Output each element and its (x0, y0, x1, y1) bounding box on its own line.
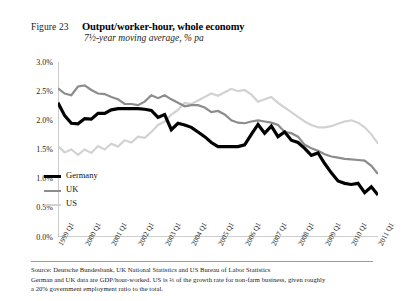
legend-label: UK (66, 184, 78, 194)
y-axis-label: 2.5% (19, 87, 53, 96)
y-axis-label: 0.0% (19, 233, 53, 242)
legend-swatch (44, 175, 61, 178)
chart-legend: GermanyUKUS (44, 170, 110, 214)
y-axis-label: 2.0% (19, 116, 53, 125)
footer-divider (31, 261, 373, 262)
figure-container: Figure 23 Output/worker-hour, whole econ… (0, 0, 402, 301)
figure-subtitle: 7½-year moving average, % pa (84, 33, 204, 43)
page-title: Output/worker-hour, whole economy (82, 21, 244, 32)
y-axis-label: 1.5% (19, 145, 53, 154)
legend-item-uk: UK (44, 184, 110, 198)
figure-label: Figure 23 (31, 22, 69, 32)
legend-label: US (66, 198, 77, 208)
legend-swatch (44, 190, 61, 192)
legend-item-germany: Germany (44, 170, 110, 184)
method-note-line-1: German and UK data are GDP/hour-worked. … (31, 276, 325, 283)
legend-item-us: US (44, 198, 110, 212)
series-line-uk (58, 85, 378, 174)
x-axis-label: 2011 Q1 (376, 221, 396, 247)
y-axis-label: 3.0% (19, 58, 53, 67)
source-note: Source: Deutsche Bundesbank, UK National… (31, 266, 270, 273)
legend-label: Germany (66, 170, 98, 180)
method-note-line-2: a 20% government employment ratio to the… (31, 285, 163, 292)
legend-swatch (44, 204, 61, 206)
